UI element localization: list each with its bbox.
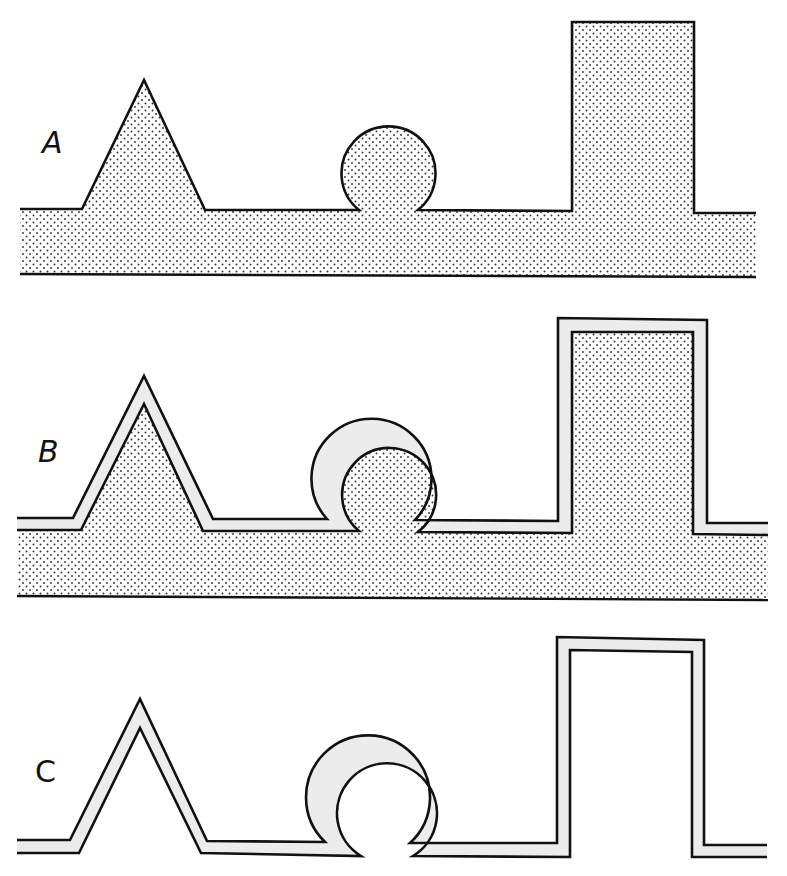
- diagram-svg: [0, 0, 787, 876]
- panel-label-c: C: [35, 757, 56, 787]
- panel-b: [17, 318, 768, 600]
- panel-label-b: B: [38, 437, 59, 467]
- panel-a: [20, 22, 756, 277]
- panel-label-a: A: [42, 128, 63, 158]
- figure-canvas: A B C: [0, 0, 787, 876]
- panel-c: [17, 637, 767, 857]
- panel-b-substrate: [17, 332, 768, 600]
- panel-a-substrate: [20, 22, 756, 276]
